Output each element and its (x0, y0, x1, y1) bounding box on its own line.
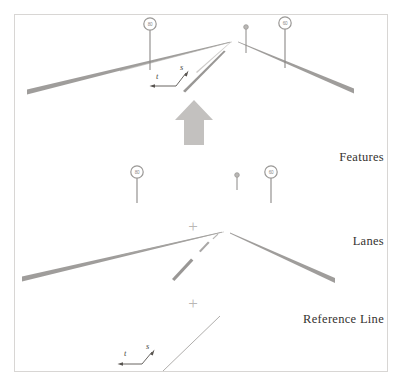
small-marker-features (244, 25, 249, 30)
layer-label-reference-line: Reference Line (303, 312, 384, 326)
plus-operator-features-lanes: + (188, 217, 198, 236)
figure-background (0, 0, 402, 385)
plus-operator-lanes-reference: + (188, 294, 198, 313)
road-layer-diagram: 80 60 s t Features 80 60 + (0, 0, 402, 385)
speed-sign-right-features-value: 60 (283, 21, 288, 26)
layer-label-features: Features (339, 150, 384, 164)
speed-sign-left-lanes-value: 80 (135, 170, 140, 175)
speed-sign-left-features-value: 80 (148, 22, 153, 27)
layer-label-lanes: Lanes (353, 234, 384, 248)
speed-sign-right-lanes-value: 60 (269, 170, 274, 175)
small-marker-lanes (235, 173, 240, 178)
